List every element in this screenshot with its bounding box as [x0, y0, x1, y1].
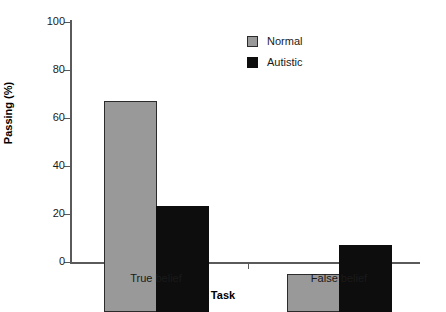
x-tick-label-true-belief: True belief	[106, 272, 206, 284]
y-tick-label-80: 80	[53, 64, 65, 75]
y-tick-label-60: 60	[53, 112, 65, 123]
legend-item-normal: Normal	[247, 33, 302, 50]
y-axis-title: Passing (%)	[2, 82, 14, 144]
x-tick-midpoint	[248, 263, 249, 269]
y-tick-label-100: 100	[47, 16, 65, 27]
x-axis-title: Task	[0, 289, 446, 301]
y-tick-100	[64, 22, 71, 23]
x-tick-label-false-belief: False belief	[289, 272, 389, 284]
legend-label-normal: Normal	[267, 36, 302, 47]
y-tick-40	[64, 166, 71, 167]
y-axis-line	[70, 20, 72, 264]
y-tick-label-20: 20	[53, 208, 65, 219]
bar-chart-figure: 100 80 60 40 20 0 Passing (%) True belie…	[0, 0, 446, 312]
legend-swatch-autistic-icon	[247, 57, 258, 68]
legend-item-autistic: Autistic	[247, 54, 302, 71]
legend-label-autistic: Autistic	[267, 57, 302, 68]
y-tick-60	[64, 118, 71, 119]
y-tick-label-0: 0	[59, 256, 65, 267]
legend: Normal Autistic	[247, 33, 302, 75]
y-tick-0	[64, 262, 71, 263]
y-tick-80	[64, 70, 71, 71]
y-tick-20	[64, 214, 71, 215]
legend-swatch-normal-icon	[247, 36, 258, 47]
y-tick-label-40: 40	[53, 160, 65, 171]
